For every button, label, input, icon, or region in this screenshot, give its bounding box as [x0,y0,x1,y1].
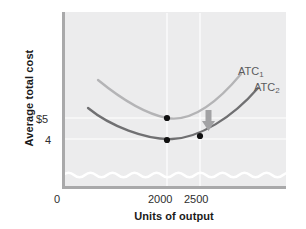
x-tick-label-0: 0 [54,193,60,205]
axis-break-wave [63,173,294,178]
y-tick-label-5: $5 [36,113,48,125]
x-axis-title: Units of output [62,210,286,222]
y-axis-title: Average total cost [23,23,35,173]
point-atc2-2000 [164,137,170,143]
x-axis-line [62,186,286,189]
x-tick-label-2000: 2000 [148,193,172,205]
curve-label-atc1: ATC1 [238,65,264,77]
y-axis-line [62,12,65,189]
curve-label-atc2-base: ATC [254,81,275,93]
curve-label-atc2: ATC2 [254,81,280,93]
curve-atc2 [88,88,258,139]
curve-atc1 [98,74,241,119]
point-atc2-2500 [197,133,203,139]
downward-shift-arrow-icon [202,110,215,131]
curve-label-atc1-subscript: 1 [259,70,263,79]
curve-label-atc1-base: ATC [238,65,259,77]
chart-figure: Average total cost Units of output $5 4 … [0,0,306,229]
point-atc1-2000 [164,115,170,121]
y-tick-label-4: 4 [45,134,51,146]
x-tick-label-2500: 2500 [184,193,208,205]
curve-label-atc2-subscript: 2 [275,86,279,95]
